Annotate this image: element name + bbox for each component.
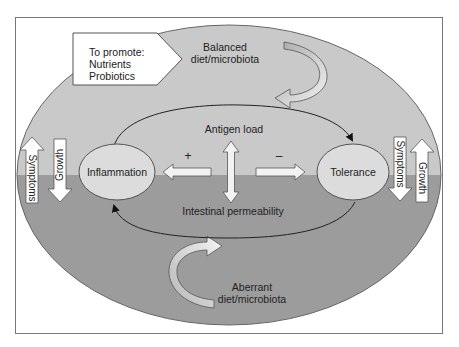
left-growth-label: Growth — [54, 149, 65, 181]
intestinal-permeability-label: Intestinal permeability — [182, 205, 284, 217]
promote-item-probiotics: Probiotics — [89, 70, 135, 82]
diagram-canvas: To promote: Nutrients Probiotics Balance… — [0, 0, 459, 347]
right-symptoms-label: Symptoms — [395, 140, 406, 187]
top-input-line2: diet/microbiota — [191, 53, 259, 65]
inflammation-label: Inflammation — [87, 166, 147, 178]
top-input-line1: Balanced — [203, 41, 247, 53]
minus-sign: – — [276, 149, 283, 163]
bottom-input-line1: Aberrant — [232, 281, 272, 293]
plus-sign: + — [184, 149, 191, 163]
bottom-input-line2: diet/microbiota — [218, 293, 286, 305]
left-symptoms-label: Symptoms — [27, 154, 38, 201]
right-growth-label: Growth — [417, 162, 428, 194]
antigen-load-label: Antigen load — [205, 123, 264, 135]
tolerance-label: Tolerance — [330, 166, 376, 178]
promote-item-nutrients: Nutrients — [89, 58, 131, 70]
promote-title: To promote: — [89, 46, 144, 58]
